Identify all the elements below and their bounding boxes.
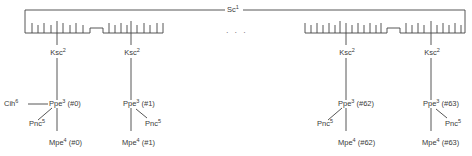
ksc-sup: 2 bbox=[352, 47, 355, 53]
ppe-index: (#0) bbox=[68, 99, 81, 108]
pnc-sup: 5 bbox=[330, 118, 333, 124]
diagram-lines bbox=[0, 0, 472, 156]
ksc-node-63: Ksc2 bbox=[424, 48, 440, 57]
pnc-name: Pnc bbox=[145, 119, 158, 128]
mpe-index: (#0) bbox=[69, 138, 82, 147]
mpe-node-63: Mpe4 (#63) bbox=[422, 138, 459, 147]
ppe-pnc-link-63 bbox=[436, 109, 447, 118]
mpe-sup: 4 bbox=[137, 137, 140, 143]
ppe-index: (#62) bbox=[357, 99, 375, 108]
pnc-sup: 5 bbox=[158, 118, 161, 124]
mpe-name: Mpe bbox=[49, 138, 64, 147]
mpe-node-0: Mpe4 (#0) bbox=[49, 138, 82, 147]
root-node-sc: Sc1 bbox=[227, 5, 239, 14]
ppe-sup: 3 bbox=[136, 98, 139, 104]
root-sup: 1 bbox=[236, 4, 239, 10]
pnc-node-0: Pnc5 bbox=[29, 119, 45, 128]
cih-node: Cih6 bbox=[4, 99, 18, 108]
ppe-sup: 3 bbox=[436, 98, 439, 104]
pnc-node-63: Pnc5 bbox=[445, 119, 461, 128]
pnc-sup: 5 bbox=[42, 118, 45, 124]
ppe-pnc-link-1 bbox=[136, 109, 147, 118]
ppe-node-62: Ppe3 (#62) bbox=[338, 99, 374, 108]
mpe-node-1: Mpe4 (#1) bbox=[122, 138, 155, 147]
ksc-sup: 2 bbox=[437, 47, 440, 53]
root-bus-left bbox=[25, 10, 225, 21]
root-bus-right bbox=[243, 10, 465, 33]
ppe-sup: 3 bbox=[62, 98, 65, 104]
ppe-node-1: Ppe3 (#1) bbox=[123, 99, 155, 108]
cih-sup: 6 bbox=[15, 98, 18, 104]
mpe-name: Mpe bbox=[122, 138, 137, 147]
pnc-node-1: Pnc5 bbox=[145, 119, 161, 128]
comb-right-ticks bbox=[311, 21, 461, 33]
pnc-sup: 5 bbox=[458, 118, 461, 124]
mpe-name: Mpe bbox=[422, 138, 437, 147]
mpe-index: (#63) bbox=[442, 138, 460, 147]
ppe-name: Ppe bbox=[338, 99, 351, 108]
comb-left-ticks bbox=[32, 21, 157, 33]
ppe-node-63: Ppe3 (#63) bbox=[423, 99, 459, 108]
ksc-node-62: Ksc2 bbox=[339, 48, 355, 57]
ppe-name: Ppe bbox=[423, 99, 436, 108]
ppe-index: (#63) bbox=[442, 99, 460, 108]
mpe-sup: 4 bbox=[353, 137, 356, 143]
comb-left bbox=[25, 21, 163, 33]
ksc-name: Ksc bbox=[124, 48, 137, 57]
pnc-name: Pnc bbox=[29, 119, 42, 128]
ppe-name: Ppe bbox=[49, 99, 62, 108]
mpe-sup: 4 bbox=[437, 137, 440, 143]
ksc-node-0: Ksc2 bbox=[50, 48, 66, 57]
ksc-name: Ksc bbox=[424, 48, 437, 57]
ksc-sup: 2 bbox=[63, 47, 66, 53]
ksc-sup: 2 bbox=[137, 47, 140, 53]
root-name: Sc bbox=[227, 5, 236, 14]
pnc-name: Pnc bbox=[445, 119, 458, 128]
ppe-node-0: Ppe3 (#0) bbox=[49, 99, 81, 108]
ppe-index: (#1) bbox=[142, 99, 155, 108]
ksc-node-1: Ksc2 bbox=[124, 48, 140, 57]
mpe-sup: 4 bbox=[64, 137, 67, 143]
ksc-name: Ksc bbox=[50, 48, 63, 57]
mpe-index: (#62) bbox=[358, 138, 376, 147]
ppe-sup: 3 bbox=[351, 98, 354, 104]
mpe-node-62: Mpe4 (#62) bbox=[338, 138, 375, 147]
mpe-index: (#1) bbox=[142, 138, 155, 147]
mpe-name: Mpe bbox=[338, 138, 353, 147]
ksc-name: Ksc bbox=[339, 48, 352, 57]
ellipsis: · · · bbox=[226, 28, 248, 37]
cih-name: Cih bbox=[4, 99, 15, 108]
ppe-name: Ppe bbox=[123, 99, 136, 108]
pnc-node-62: Pnc5 bbox=[317, 119, 333, 128]
pnc-name: Pnc bbox=[317, 119, 330, 128]
